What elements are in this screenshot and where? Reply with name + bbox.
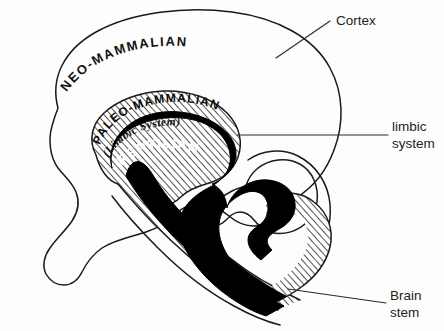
callout-label-limbic-line1: limbic [392, 119, 427, 134]
callout-label-cortex: Cortex [336, 13, 376, 28]
brain-diagram-svg: NEO-MAMMALIAN PALEO-MAMMALIAN (Limbic Sy… [0, 0, 444, 331]
callout-label-brainstem-line1: Brain [390, 288, 422, 303]
triune-brain-figure: NEO-MAMMALIAN PALEO-MAMMALIAN (Limbic Sy… [0, 0, 444, 331]
callout-label-limbic-line2: system [392, 136, 435, 151]
callout-label-brainstem-line2: stem [390, 305, 419, 320]
